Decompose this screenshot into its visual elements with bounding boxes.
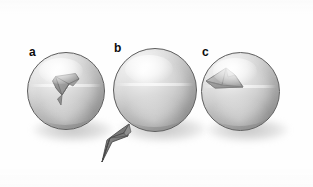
sphere-c-equator-highlight <box>204 85 276 88</box>
sphere-a-equator-highlight <box>30 84 101 87</box>
panel-c-label: c <box>202 46 209 58</box>
figure-canvas: a b <box>0 0 313 187</box>
sphere-b <box>113 48 197 132</box>
sphere-b-equator-highlight <box>116 83 193 86</box>
sphere-c <box>201 52 280 131</box>
sphere-a-attached-flake-icon <box>28 53 105 130</box>
panel-a-label: a <box>29 46 36 58</box>
panel-b-label: b <box>114 42 121 54</box>
sphere-c-spall-crater-icon <box>202 53 280 131</box>
sphere-a <box>27 52 105 130</box>
